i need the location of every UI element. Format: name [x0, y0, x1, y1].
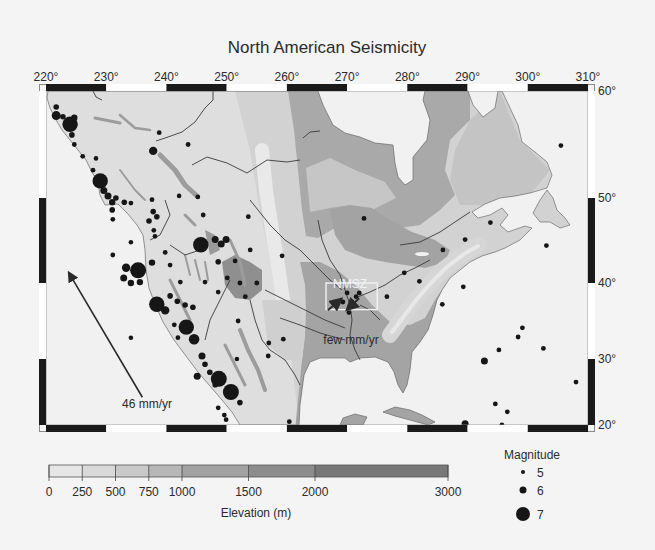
earthquake-point [224, 417, 229, 422]
earthquake-point [222, 413, 227, 418]
earthquake-point [157, 130, 162, 135]
earthquake-point [266, 354, 271, 359]
earthquake-point [493, 402, 498, 407]
frame-band-left [39, 198, 46, 283]
frame-band-left [39, 283, 46, 359]
colorbar-segment [82, 465, 115, 477]
earthquake-point [91, 168, 96, 173]
earthquake-point [207, 369, 213, 375]
frame-band-top [106, 84, 166, 91]
frame-band-bottom [407, 425, 467, 432]
earthquake-point [357, 291, 362, 296]
frame-band-bottom [468, 425, 528, 432]
earthquake-point [146, 218, 152, 224]
earthquake-point [341, 300, 346, 305]
earthquake-point [236, 319, 241, 324]
earthquake-point [110, 253, 115, 258]
earthquake-point [223, 236, 230, 243]
lat-tick-label: 20° [598, 418, 616, 432]
colorbar-segment [116, 465, 149, 477]
earthquake-point [105, 192, 112, 199]
colorbar-tick-label: 3000 [435, 485, 462, 499]
colorbar-tick-label: 250 [72, 485, 92, 499]
lon-tick-label: 310° [576, 70, 601, 84]
earthquake-point [69, 132, 75, 138]
earthquake-point [52, 111, 61, 120]
earthquake-point [385, 294, 390, 299]
map: NMSZ few mm/yr 46 mm/yr [40, 85, 600, 430]
plate-rate-label: 46 mm/yr [122, 397, 172, 411]
earthquake-point [201, 213, 206, 218]
lake-ontario [415, 252, 429, 256]
frame-band-top [407, 84, 467, 91]
earthquake-point [461, 284, 466, 289]
earthquake-point [287, 419, 292, 424]
earthquake-point [215, 259, 221, 265]
colorbar-tick-label: 1500 [235, 485, 262, 499]
earthquake-point [254, 281, 259, 286]
frame-band-bottom [46, 425, 106, 432]
earthquake-point [189, 334, 200, 345]
frame-band-right [588, 198, 595, 283]
earthquake-point [505, 409, 510, 414]
earthquake-point [225, 276, 230, 281]
earthquake-point [440, 302, 445, 307]
earthquake-point [516, 335, 521, 340]
colorbar-segment [249, 465, 316, 477]
earthquake-point [541, 346, 546, 351]
lon-tick-label: 250° [214, 70, 239, 84]
earthquake-point [182, 302, 188, 308]
frame-band-bottom [227, 425, 287, 432]
frame-band-left [39, 359, 46, 425]
earthquake-point [153, 234, 158, 239]
nmsz-rate-label: few mm/yr [323, 333, 378, 347]
earthquake-point [223, 384, 239, 400]
earthquake-point [167, 293, 173, 299]
earthquake-point [199, 353, 206, 360]
colorbar-tick-label: 0 [46, 485, 53, 499]
earthquake-point [497, 348, 502, 353]
earthquake-point [149, 259, 155, 265]
colorbar-tick-label: 750 [139, 485, 159, 499]
earthquake-point [161, 306, 169, 314]
earthquake-point [80, 154, 85, 159]
earthquake-point [243, 294, 248, 299]
earthquake-point [168, 263, 173, 268]
elevation-colorbar: 02505007501000150020003000 [46, 465, 462, 499]
earthquake-point [172, 322, 177, 327]
lon-tick-label: 260° [274, 70, 299, 84]
earthquake-point [237, 400, 243, 406]
earthquake-point [238, 281, 243, 286]
frame-band-top [468, 84, 528, 91]
figure-title: North American Seismicity [228, 38, 427, 57]
legend-marker [520, 487, 527, 494]
legend-label: 7 [537, 508, 544, 522]
frame-band-top [46, 84, 106, 91]
earthquake-point [488, 220, 493, 225]
lat-tick-label: 50° [598, 191, 616, 205]
earthquake-point [203, 280, 208, 285]
earthquake-point [175, 298, 181, 304]
earthquake-point [122, 264, 130, 272]
frame-band-top [166, 84, 226, 91]
earthquake-point [520, 325, 525, 330]
magnitude-legend: Magnitude 567 [504, 448, 560, 522]
earthquake-point [193, 237, 208, 252]
frame-band-left [39, 91, 46, 198]
earthquake-point [281, 337, 286, 342]
earthquake-point [93, 173, 108, 188]
lat-tick-label: 40° [598, 276, 616, 290]
earthquake-point [559, 143, 564, 148]
frame-band-top [528, 84, 588, 91]
frame-band-right [588, 91, 595, 198]
earthquake-point [574, 380, 579, 385]
frame-band-bottom [287, 425, 347, 432]
earthquake-point [248, 248, 253, 253]
lon-tick-label: 220° [34, 70, 59, 84]
earthquake-point [233, 259, 238, 264]
earthquake-point [212, 236, 219, 243]
earthquake-point [71, 115, 77, 121]
earthquake-point [194, 373, 201, 380]
earthquake-point [402, 270, 407, 275]
earthquake-point [417, 279, 422, 284]
